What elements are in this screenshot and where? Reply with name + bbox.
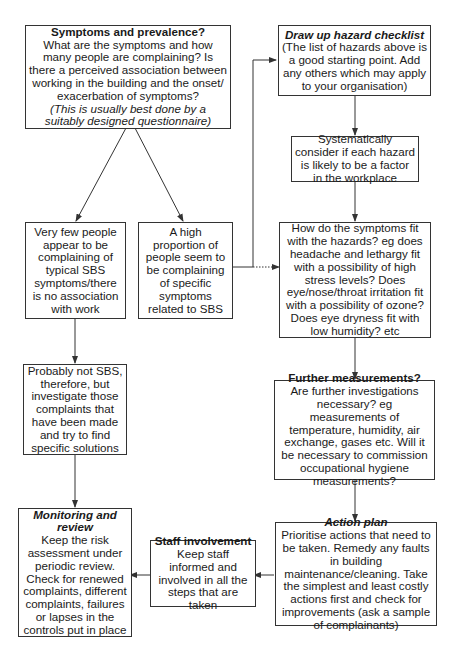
arrow-high-to-checklist	[232, 60, 276, 267]
node-body: What are the symptoms and how many peopl…	[29, 39, 227, 103]
node-body: A high proportion of people seem to be c…	[142, 226, 229, 316]
node-systematically-consider: Systematically consider if each hazard i…	[291, 136, 419, 182]
node-symptoms-fit: How do the symptoms fit with the hazards…	[279, 222, 431, 338]
node-probably-not-sbs: Probably not SBS, therefore, but investi…	[23, 364, 127, 455]
node-body: Keep staff informed and involved in all …	[154, 548, 252, 612]
node-high-proportion: A high proportion of people seem to be c…	[138, 222, 233, 319]
node-body: (The list of hazards above is a good sta…	[282, 41, 427, 92]
node-symptoms-prevalence: Symptoms and prevalence? What are the sy…	[25, 25, 231, 129]
node-body: Are further investigations necessary? eg…	[278, 385, 431, 487]
node-body: Systematically consider if each hazard i…	[295, 133, 415, 184]
node-body: Keep the risk assessment under periodic …	[22, 534, 128, 636]
node-body: Very few people appear to be complaining…	[29, 226, 122, 316]
node-staff-involvement: Staff involvement Keep staff informed an…	[150, 540, 256, 607]
node-further-measurements: Further measurements? Are further invest…	[274, 380, 435, 480]
node-action-plan: Action plan Prioritise actions that need…	[275, 522, 437, 626]
node-note: (This is usually best done by a suitably…	[29, 103, 227, 129]
node-body: Probably not SBS, therefore, but investi…	[27, 365, 123, 455]
arrow-symptoms-to-high	[135, 128, 183, 221]
node-title: Symptoms and prevalence?	[29, 26, 227, 39]
node-title: Staff involvement	[154, 535, 252, 548]
node-body: Prioritise actions that need to be taken…	[279, 529, 433, 631]
arrow-symptoms-to-few	[76, 128, 126, 221]
node-monitoring-review: Monitoring and review Keep the risk asse…	[18, 508, 132, 637]
node-title: Monitoring and review	[22, 509, 128, 535]
node-body: How do the symptoms fit with the hazards…	[283, 222, 427, 337]
node-hazard-checklist: Draw up hazard checklist (The list of ha…	[278, 25, 431, 96]
node-very-few-people: Very few people appear to be complaining…	[25, 222, 126, 319]
